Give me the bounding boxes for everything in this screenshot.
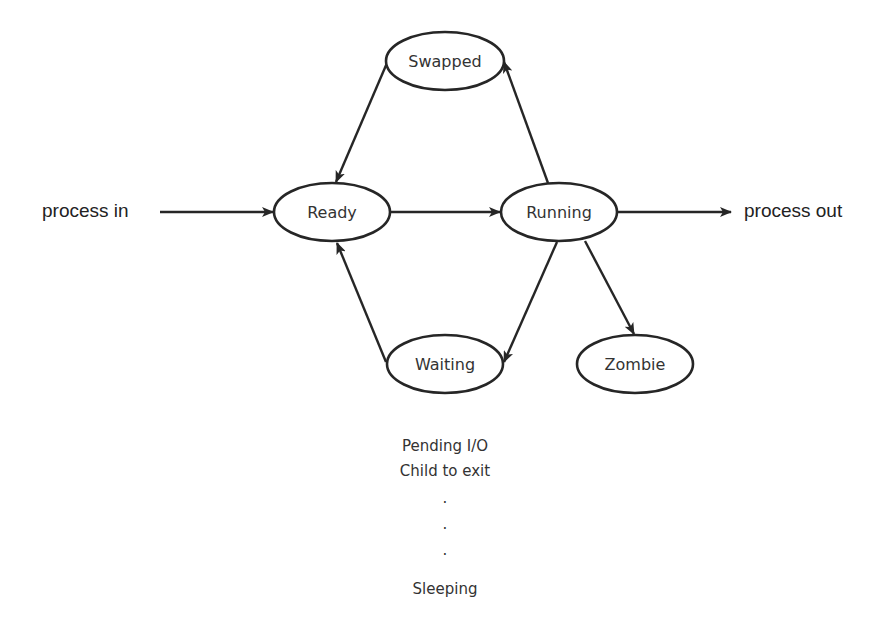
process-in-label: process in	[42, 200, 129, 221]
edge-running-to-zombie	[585, 241, 634, 334]
node-swapped-label: Swapped	[408, 52, 481, 71]
edge-swapped-to-ready	[336, 63, 387, 182]
process-state-diagram: Swapped Ready Running Waiting Zombie pro…	[0, 0, 895, 630]
waiting-reason-pending-io: Pending I/O	[340, 436, 550, 456]
process-out-label: process out	[744, 200, 843, 221]
node-zombie: Zombie	[577, 335, 693, 393]
waiting-reason-child-exit: Child to exit	[340, 461, 550, 481]
edge-running-to-waiting	[504, 242, 557, 362]
node-running-label: Running	[526, 203, 592, 222]
node-zombie-label: Zombie	[605, 355, 666, 374]
node-ready: Ready	[274, 183, 390, 241]
waiting-reason-ellipsis-3: .	[340, 540, 550, 560]
node-running: Running	[501, 183, 617, 241]
edge-running-to-swapped	[504, 62, 548, 183]
node-waiting: Waiting	[387, 335, 503, 393]
waiting-reason-ellipsis-2: .	[340, 514, 550, 534]
node-ready-label: Ready	[307, 203, 357, 222]
node-swapped: Swapped	[386, 32, 504, 90]
waiting-reason-sleeping: Sleeping	[340, 579, 550, 599]
edge-waiting-to-ready	[337, 243, 386, 362]
waiting-reason-ellipsis-1: .	[340, 488, 550, 508]
node-waiting-label: Waiting	[415, 355, 475, 374]
